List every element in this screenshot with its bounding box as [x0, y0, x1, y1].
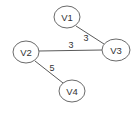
node-v1-label: V1 [61, 12, 73, 23]
node-v2: V2 [13, 41, 39, 63]
node-v3: V3 [102, 39, 130, 61]
nodes: V1 V2 V3 V4 [13, 6, 130, 102]
edge-weight-v2-v4: 5 [49, 63, 54, 73]
edge-v1-v3 [76, 26, 104, 44]
node-v1: V1 [54, 6, 80, 28]
node-v4-label: V4 [66, 86, 78, 97]
edge-weight-v1-v3: 3 [83, 33, 88, 43]
node-v4: V4 [59, 80, 85, 102]
edges [35, 26, 104, 83]
edge-v2-v3 [39, 50, 102, 51]
node-v2-label: V2 [20, 47, 32, 58]
node-v3-label: V3 [110, 45, 122, 56]
graph-diagram: 3 3 5 V1 V2 V3 V4 [0, 0, 136, 118]
edge-labels: 3 3 5 [49, 33, 88, 73]
edge-weight-v2-v3: 3 [68, 40, 73, 50]
